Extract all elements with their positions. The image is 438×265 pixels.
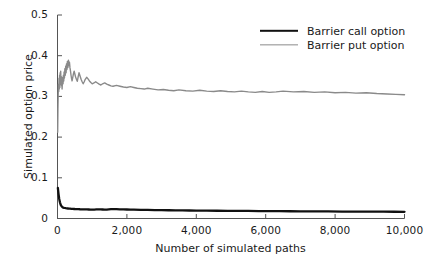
x-tick-label: 0	[28, 224, 88, 236]
y-tick-label: 0.4	[8, 49, 48, 61]
y-tick-label: 0	[8, 212, 48, 224]
legend-label-barrier-call: Barrier call option	[307, 25, 405, 38]
y-tick-label: 0.2	[8, 130, 48, 142]
legend-item-barrier-put: Barrier put option	[258, 38, 434, 52]
y-tick-label: 0.1	[8, 171, 48, 183]
chart-legend: Barrier call option Barrier put option	[258, 24, 434, 52]
x-tick-label: 6,000	[236, 224, 296, 236]
y-tick-label: 0.3	[8, 89, 48, 101]
legend-swatch-barrier-call	[258, 26, 300, 36]
series-line-barrier-call-option	[58, 188, 405, 212]
x-tick-label: 10,000	[375, 224, 435, 236]
x-tick-label: 8,000	[305, 224, 365, 236]
legend-swatch-barrier-put	[258, 40, 300, 50]
x-tick-label: 2,000	[97, 224, 157, 236]
x-axis-label: Number of simulated paths	[57, 242, 404, 255]
legend-item-barrier-call: Barrier call option	[258, 24, 434, 38]
y-tick-label: 0.5	[8, 8, 48, 20]
x-tick-label: 4,000	[166, 224, 226, 236]
data-series-group	[58, 60, 405, 212]
legend-label-barrier-put: Barrier put option	[307, 39, 405, 52]
chart-figure: Simulated option price Number of simulat…	[0, 0, 438, 265]
x-axis-ticks	[58, 214, 405, 219]
series-line-barrier-put-option	[58, 60, 405, 132]
